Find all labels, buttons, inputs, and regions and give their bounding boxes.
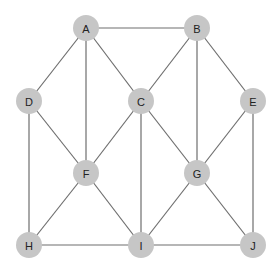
node-label: E: [249, 96, 256, 108]
node-label: H: [25, 240, 33, 252]
node-g: G: [184, 160, 210, 186]
node-label: J: [250, 240, 256, 252]
node-h: H: [16, 232, 42, 258]
edge-a-d: [29, 28, 86, 101]
graph-diagram: ABDCEFGHIJ: [0, 0, 277, 271]
node-label: D: [25, 96, 33, 108]
node-e: E: [240, 88, 266, 114]
node-b: B: [184, 15, 210, 41]
node-a: A: [73, 15, 99, 41]
node-label: G: [193, 168, 202, 180]
node-d: D: [16, 88, 42, 114]
node-label: I: [139, 240, 142, 252]
node-label: F: [83, 168, 90, 180]
edge-b-c: [141, 28, 197, 101]
edge-f-h: [29, 173, 86, 245]
edge-d-f: [29, 101, 86, 173]
node-i: I: [128, 232, 154, 258]
edge-a-c: [86, 28, 141, 101]
edge-e-g: [197, 101, 253, 173]
node-j: J: [240, 232, 266, 258]
edge-b-e: [197, 28, 253, 101]
edges-layer: [29, 28, 253, 245]
edge-g-i: [141, 173, 197, 245]
edge-c-f: [86, 101, 141, 173]
node-f: F: [73, 160, 99, 186]
edge-g-j: [197, 173, 253, 245]
node-label: C: [137, 96, 145, 108]
edge-f-i: [86, 173, 141, 245]
node-c: C: [128, 88, 154, 114]
edge-c-g: [141, 101, 197, 173]
node-label: A: [82, 23, 90, 35]
node-label: B: [193, 23, 200, 35]
